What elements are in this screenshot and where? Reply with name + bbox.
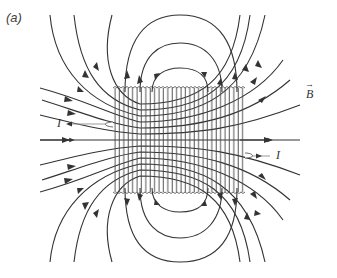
solenoid-coil [113,88,245,192]
current-label-right: I [276,148,280,163]
field-vector-arrow: → [305,79,314,89]
field-lines-diagram [0,0,337,278]
current-label-left: I [57,116,61,131]
field-label: B [306,87,313,102]
solenoid-field-diagram: (a) [0,0,337,278]
current-lead-right [245,153,270,159]
